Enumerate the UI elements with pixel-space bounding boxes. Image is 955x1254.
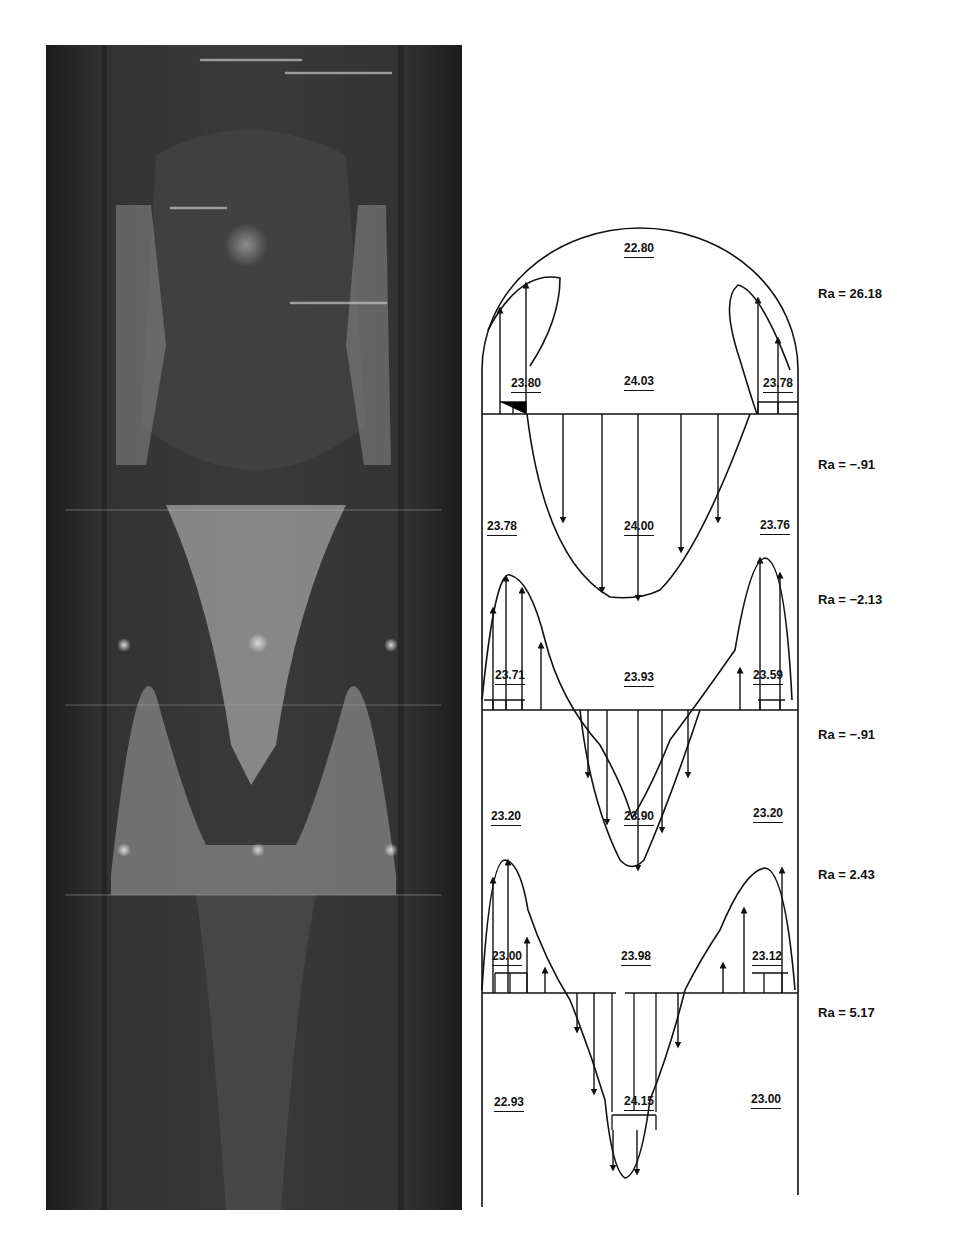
temp-label-cell5-center: 24.15 xyxy=(624,1095,654,1111)
temp-label-cell1-left: 23.78 xyxy=(487,520,517,536)
temp-label-cell1-right: 23.76 xyxy=(760,519,790,535)
temp-label-cell4-right: 23.12 xyxy=(752,950,782,966)
flow-visualization-photo xyxy=(46,45,462,1210)
temp-label-cell4-center: 23.98 xyxy=(621,950,651,966)
rayleigh-label-4: Ra = −.91 xyxy=(818,727,875,742)
temp-label-cell2-right: 23.59 xyxy=(753,669,783,685)
temp-label-cell3-left: 23.20 xyxy=(491,810,521,826)
temp-label-cell1-center: 24.00 xyxy=(624,520,654,536)
temp-label-dome-core: 24.03 xyxy=(624,375,654,391)
convection-cell-diagram: 22.80 23.80 24.03 23.78 23.78 24.00 23.7… xyxy=(470,220,810,1210)
temp-label-cell3-center: 23.90 xyxy=(624,810,654,826)
temp-label-cell4-left: 23.00 xyxy=(492,950,522,966)
temp-label-cell3-right: 23.20 xyxy=(753,807,783,823)
rayleigh-label-2: Ra = −.91 xyxy=(818,457,875,472)
temp-label-dome-left: 23.80 xyxy=(511,377,541,393)
rayleigh-label-6: Ra = 5.17 xyxy=(818,1005,875,1020)
temp-label-dome-right: 23.78 xyxy=(763,377,793,393)
rayleigh-label-5: Ra = 2.43 xyxy=(818,867,875,882)
temp-label-cell2-center: 23.93 xyxy=(624,671,654,687)
temp-label-cell5-right: 23.00 xyxy=(751,1093,781,1109)
temp-label-dome-top: 22.80 xyxy=(624,242,654,258)
rayleigh-label-1: Ra = 26.18 xyxy=(818,286,882,301)
temp-label-cell2-left: 23.71 xyxy=(495,669,525,685)
rayleigh-label-3: Ra = −2.13 xyxy=(818,592,882,607)
temp-label-cell5-left: 22.93 xyxy=(494,1096,524,1112)
